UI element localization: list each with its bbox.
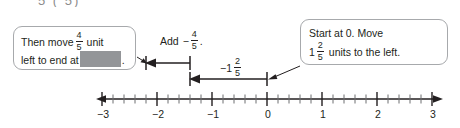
callout-left-fraction-numerator: 4 <box>76 31 83 40</box>
callout-left-line2-pre: left to end at <box>21 51 79 69</box>
add-fraction-numerator: 4 <box>191 30 198 39</box>
diagram-canvas: 5 ( 5) <box>0 0 460 128</box>
callout-right-fraction-numerator: 2 <box>317 41 324 50</box>
add-period: . <box>200 35 203 47</box>
axis-arrow-right <box>433 95 443 103</box>
tick-label-1: 1 <box>316 108 330 120</box>
callout-right-mixed-number: 1 2 5 <box>309 41 326 62</box>
jump-fraction: 2 5 <box>234 57 241 78</box>
jump-whole-number: 1 <box>226 62 232 74</box>
callout-right-fraction: 2 5 <box>317 41 324 62</box>
callout-left-fraction: 4 5 <box>76 31 83 52</box>
callout-left-line1: Then move 4 5 unit <box>21 31 129 52</box>
tick-label--1: −1 <box>206 108 220 120</box>
answer-blank[interactable] <box>80 51 121 67</box>
callout-right: Start at 0. Move 1 2 5 units to the left… <box>300 19 448 65</box>
add-fraction-label: Add − 4 5 . <box>160 30 203 51</box>
callout-right-line2: 1 2 5 units to the left. <box>309 41 447 62</box>
tick-label-3: 3 <box>426 108 440 120</box>
tick-label--2: −2 <box>151 108 165 120</box>
add-fraction-denominator: 5 <box>191 42 198 51</box>
tick-label-0: 0 <box>261 108 275 120</box>
add-word: Add <box>160 35 179 47</box>
add-minus-sign: − <box>183 35 189 47</box>
callout-left-line1-post: unit <box>87 33 104 51</box>
tick-label-2: 2 <box>371 108 385 120</box>
leader-right-arrowhead <box>268 74 277 79</box>
jump-fraction-numerator: 2 <box>234 57 241 66</box>
callout-left-line2: left to end at . <box>21 51 129 69</box>
callout-left: Then move 4 5 unit left to end at . <box>13 26 136 70</box>
callout-left-line1-pre: Then move <box>21 33 74 51</box>
axis-arrow-left <box>96 95 106 103</box>
callout-right-fraction-denominator: 5 <box>317 53 324 62</box>
callout-right-line2-post: units to the left. <box>329 43 400 61</box>
tick-label--3: −3 <box>96 108 110 120</box>
callout-right-whole-number: 1 <box>309 43 315 61</box>
callout-right-line1: Start at 0. Move <box>309 24 447 42</box>
add-fraction: 4 5 <box>191 30 198 51</box>
callout-left-line2-post: . <box>122 51 125 69</box>
jump-lower-label: − 1 2 5 <box>220 57 243 78</box>
jump-fraction-denominator: 5 <box>234 69 241 78</box>
